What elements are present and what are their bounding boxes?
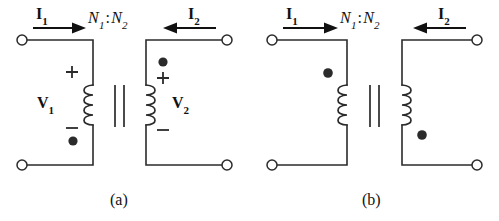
current-subscript-primary-b: 1 [292, 15, 298, 27]
voltage-subscript-primary-a: 1 [49, 104, 55, 116]
primary-coil-b [338, 85, 347, 125]
primary-top-wire-b [277, 40, 347, 85]
polarity-dot-secondary-b [417, 130, 427, 140]
panel-a: I1 I2 N1:N2 V1 V2 (a) [0, 0, 249, 221]
caption-a: (a) [110, 192, 128, 208]
turns-n2-a: N [111, 9, 122, 26]
current-label-primary-b: I1 [286, 6, 298, 25]
terminal-primary-top-b[interactable] [267, 35, 277, 45]
secondary-top-wire-b [402, 40, 472, 85]
voltage-symbol-secondary-a: V [172, 94, 184, 111]
secondary-bottom-wire-b [402, 125, 472, 165]
current-subscript-secondary-a: 2 [194, 15, 200, 27]
secondary-coil-b [402, 85, 411, 125]
secondary-coil-a [146, 85, 155, 125]
plus-sign-primary-a [66, 66, 78, 78]
turns-n1-a: N [88, 9, 99, 26]
panel-b-schematic [250, 0, 499, 221]
turns-ratio-label-a: N1:N2 [88, 10, 128, 29]
turns-n2-sub-b: 2 [374, 19, 380, 31]
voltage-symbol-primary-a: V [37, 94, 49, 111]
polarity-dot-primary-a [68, 136, 77, 145]
current-label-primary-a: I1 [36, 6, 48, 25]
current-arrow-secondary-head-b [413, 23, 427, 34]
terminal-secondary-top-b[interactable] [472, 35, 482, 45]
turns-n1-b: N [340, 9, 351, 26]
terminal-secondary-top-a[interactable] [222, 35, 232, 45]
current-arrow-primary-head-a [72, 23, 86, 34]
polarity-dot-secondary-a [158, 57, 167, 66]
primary-bottom-wire-b [277, 125, 347, 165]
current-label-secondary-a: I2 [188, 6, 200, 25]
current-arrow-primary-head-b [324, 23, 338, 34]
caption-b: (b) [362, 192, 381, 208]
primary-coil-a [84, 85, 93, 125]
terminal-primary-bottom-b[interactable] [267, 160, 277, 170]
plus-sign-secondary-a [157, 72, 169, 84]
turns-n2-sub-a: 2 [122, 19, 128, 31]
current-subscript-primary-a: 1 [42, 15, 48, 27]
turns-n2-b: N [363, 9, 374, 26]
secondary-bottom-wire-a [146, 125, 222, 165]
polarity-dot-primary-b [323, 68, 333, 78]
current-arrow-secondary-head-a [163, 23, 177, 34]
current-label-secondary-b: I2 [438, 6, 450, 25]
voltage-subscript-secondary-a: 2 [184, 104, 190, 116]
terminal-primary-top-a[interactable] [17, 35, 27, 45]
panel-b: I1 I2 N1:N2 (b) [250, 0, 499, 221]
terminal-secondary-bottom-b[interactable] [472, 160, 482, 170]
turns-n1-sub-b: 1 [351, 19, 357, 31]
transformer-figure: I1 I2 N1:N2 V1 V2 (a) [0, 0, 499, 221]
voltage-label-secondary-a: V2 [172, 95, 189, 114]
turns-n1-sub-a: 1 [99, 19, 105, 31]
primary-bottom-wire-a [27, 125, 93, 165]
turns-ratio-label-b: N1:N2 [340, 10, 380, 29]
primary-top-wire-a [27, 40, 93, 85]
terminal-primary-bottom-a[interactable] [17, 160, 27, 170]
terminal-secondary-bottom-a[interactable] [222, 160, 232, 170]
voltage-label-primary-a: V1 [37, 95, 54, 114]
current-subscript-secondary-b: 2 [444, 15, 450, 27]
